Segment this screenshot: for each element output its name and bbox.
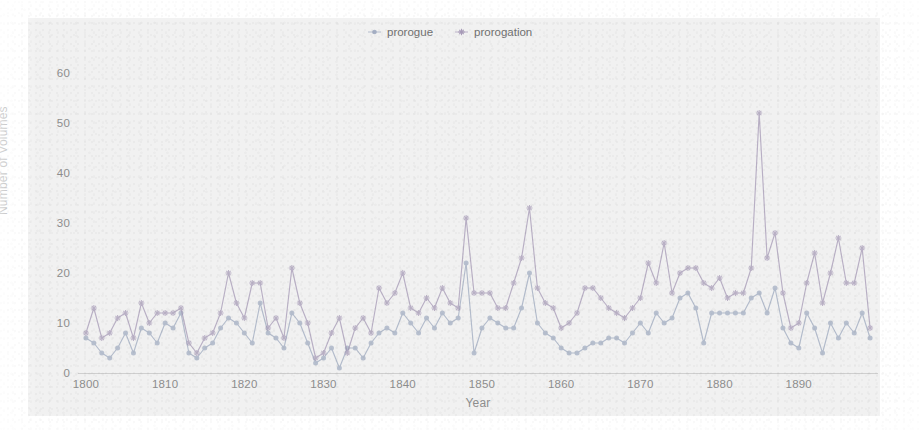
x-tick-label-1870: 1870 (627, 378, 653, 390)
x-tick-label-1880: 1880 (706, 378, 732, 390)
series-prorogue (83, 261, 872, 371)
x-tick-label-1850: 1850 (469, 378, 495, 390)
chart-figure: 0102030405060 Number of Volumes Year pro… (0, 0, 919, 430)
x-tick-label-1890: 1890 (786, 378, 812, 390)
x-tick-label-1860: 1860 (548, 378, 574, 390)
x-tick-label-1830: 1830 (310, 378, 336, 390)
x-tick-label-1820: 1820 (231, 378, 257, 390)
series-prorogation (83, 110, 873, 361)
x-tick-label-1840: 1840 (390, 378, 416, 390)
x-tick-label-1800: 1800 (73, 378, 99, 390)
chart-plot-area (0, 0, 919, 430)
x-tick-label-1810: 1810 (152, 378, 178, 390)
